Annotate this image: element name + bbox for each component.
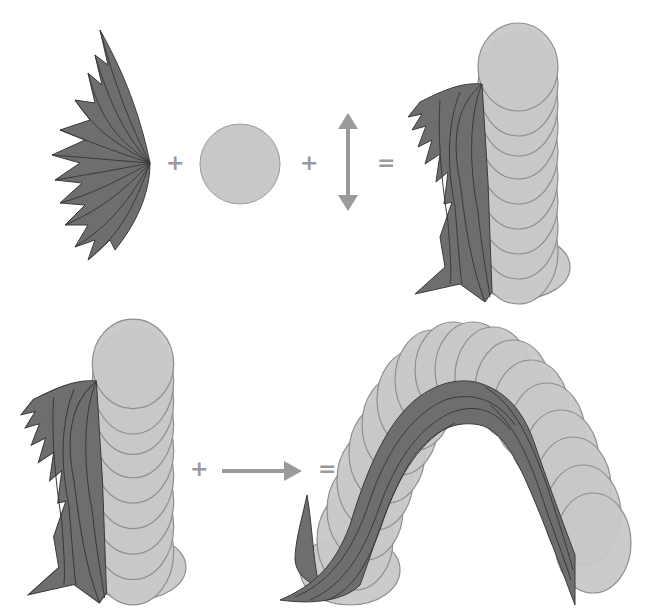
plus-operator-1: + [166,152,184,174]
plus-operator-3: + [190,458,208,480]
feather-fan-icon [40,25,155,265]
plus-operator-2: + [300,152,318,174]
equals-operator-1: = [377,152,395,174]
arch-stroke-icon [275,315,650,610]
column-stroke-input-icon [12,318,197,608]
vertical-double-arrow-icon [336,113,360,211]
column-stroke-icon [400,22,580,307]
disc-icon [198,122,282,206]
